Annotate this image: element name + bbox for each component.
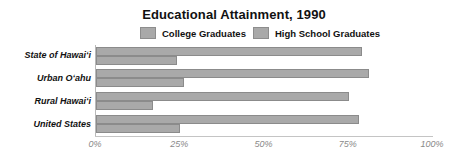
x-tick-label: 50% xyxy=(254,139,272,149)
bar-high-school-graduates xyxy=(96,47,362,56)
chart-page: Educational Attainment, 1990 College Gra… xyxy=(0,0,468,159)
bar-high-school-graduates xyxy=(96,92,349,101)
legend-swatch-high-school-graduates xyxy=(253,27,269,39)
category-label: Rural Hawaiʻi xyxy=(3,96,91,106)
x-axis-line xyxy=(95,136,433,137)
bar-college-graduates xyxy=(96,56,177,65)
x-tick-label: 75% xyxy=(339,139,357,149)
legend-swatch-college-graduates xyxy=(140,27,156,39)
category-axis-labels: State of HawaiʻiUrban OʻahuRural Hawaiʻi… xyxy=(0,45,91,136)
legend-item-high-school-graduates: High School Graduates xyxy=(253,26,380,40)
category-label: Urban Oʻahu xyxy=(3,73,91,83)
category-label: State of Hawaiʻi xyxy=(3,50,91,60)
x-axis-tick-labels: 0%25%50%75%100% xyxy=(0,139,468,153)
x-tick-label: 25% xyxy=(170,139,188,149)
chart-legend: College Graduates High School Graduates xyxy=(140,26,400,40)
bar-group xyxy=(96,68,433,91)
bar-college-graduates xyxy=(96,124,180,133)
chart-title: Educational Attainment, 1990 xyxy=(0,7,468,22)
bar-group xyxy=(96,91,433,114)
plot-area xyxy=(95,45,433,136)
category-label: United States xyxy=(3,119,91,129)
legend-item-college-graduates: College Graduates xyxy=(140,26,246,40)
legend-label-high-school-graduates: High School Graduates xyxy=(275,28,380,39)
bar-college-graduates xyxy=(96,101,153,110)
x-tick-label: 0% xyxy=(88,139,101,149)
bar-high-school-graduates xyxy=(96,69,369,78)
x-tick-label: 100% xyxy=(420,139,443,149)
legend-label-college-graduates: College Graduates xyxy=(162,28,246,39)
bar-college-graduates xyxy=(96,78,184,87)
bar-group xyxy=(96,45,433,68)
bar-high-school-graduates xyxy=(96,115,359,124)
bar-group xyxy=(96,113,433,136)
